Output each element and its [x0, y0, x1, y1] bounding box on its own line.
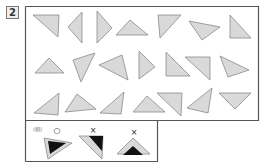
- triangle-r1-6[interactable]: [189, 21, 220, 40]
- triangle-r2-5[interactable]: [166, 52, 190, 76]
- triangle-r1-7[interactable]: [230, 15, 251, 38]
- triangle-r3-5[interactable]: [157, 93, 182, 116]
- triangle-r2-2[interactable]: [73, 53, 95, 82]
- triangle-r1-1[interactable]: [33, 15, 59, 37]
- triangle-r3-2[interactable]: [65, 94, 96, 112]
- mark-correct: ○: [54, 126, 61, 135]
- example-wrong-bottom-triangle: [117, 138, 150, 155]
- triangle-r2-6[interactable]: [185, 57, 210, 80]
- example-correct-triangle: [44, 138, 72, 159]
- triangle-r3-7[interactable]: [219, 93, 251, 109]
- triangle-r2-4[interactable]: [139, 51, 155, 79]
- example-wrong-corner-triangle: [79, 136, 103, 159]
- triangle-r2-3[interactable]: [99, 55, 128, 80]
- triangle-r3-1[interactable]: [34, 93, 59, 115]
- figure-canvas: (例) ○ × ×: [0, 0, 262, 165]
- triangle-r2-1[interactable]: [35, 58, 64, 73]
- triangle-set: [33, 11, 251, 116]
- mark-wrong-1: ×: [90, 126, 97, 135]
- triangle-r1-3[interactable]: [97, 11, 112, 43]
- triangle-r3-4[interactable]: [133, 96, 165, 112]
- example-label: (例): [33, 126, 42, 133]
- triangle-r1-4[interactable]: [116, 20, 148, 35]
- triangle-r3-6[interactable]: [187, 88, 212, 113]
- triangle-r1-2[interactable]: [68, 12, 82, 43]
- mark-wrong-2: ×: [131, 128, 138, 137]
- triangle-r1-5[interactable]: [158, 15, 181, 38]
- triangle-r3-3[interactable]: [100, 92, 124, 114]
- triangle-r2-7[interactable]: [220, 56, 249, 77]
